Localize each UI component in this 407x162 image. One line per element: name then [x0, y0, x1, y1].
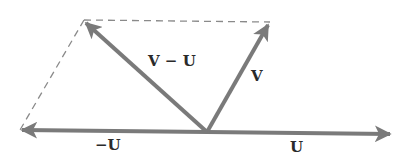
- dashed-top-line: [84, 20, 270, 22]
- label-u: U: [290, 138, 303, 156]
- vector-neg-u-arrow: [22, 130, 207, 132]
- vector-v-minus-u-arrow: [86, 23, 207, 132]
- label-v-minus-u: V − U: [148, 52, 196, 70]
- label-v: V: [251, 67, 263, 85]
- label-neg-u: −U: [95, 136, 121, 154]
- dashed-left-line: [20, 20, 84, 130]
- vector-diagram-canvas: [0, 0, 407, 162]
- vector-u-arrow: [207, 132, 390, 134]
- vector-diagram: V − U V −U U: [0, 0, 407, 162]
